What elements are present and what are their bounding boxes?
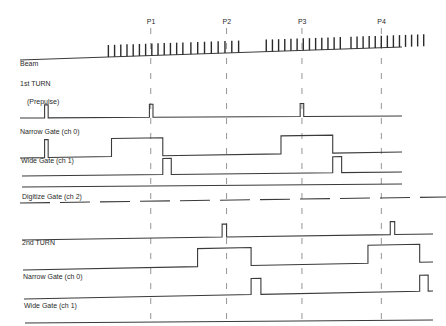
marker-label-p2: P2 (223, 18, 232, 25)
beam-label: Beam (20, 60, 38, 67)
prepulse-trace (20, 104, 402, 118)
digitize-gate-2-trace (25, 320, 433, 323)
narrow-gate-trace (20, 135, 402, 158)
marker-label-p4: P4 (377, 18, 386, 25)
marker-label-p3: P3 (298, 18, 307, 25)
marker-label-p1: P1 (147, 18, 156, 25)
timing-diagram-canvas: P1P2P3P4 Beam 1st TURN (Prepulse) Narrow… (0, 0, 446, 326)
timing-diagram: P1P2P3P4 Beam 1st TURN (Prepulse) Narrow… (0, 0, 446, 326)
digitize-gate-label: Digitize Gate (ch 2) (22, 193, 82, 201)
section-title-1st-turn: 1st TURN (20, 80, 51, 87)
turn-separator (20, 197, 446, 203)
bunch-train-2 (191, 41, 239, 55)
narrow-gate-2-trace (23, 244, 433, 270)
time-markers: P1P2P3P4 (147, 18, 386, 320)
bunch-train-4 (351, 34, 424, 48)
narrow-gate-label: Narrow Gate (ch 0) (20, 128, 80, 136)
wide-gate-2-trace (24, 275, 433, 299)
digitize-gate-trace (22, 184, 402, 187)
wide-gate-trace (22, 157, 402, 176)
wide-gate-2-label: Wide Gate (ch 1) (24, 302, 77, 310)
narrow-gate-2-label: Narrow Gate (ch 0) (23, 273, 83, 281)
prepulse-2-trace (22, 222, 433, 240)
prepulse-label: (Prepulse) (27, 98, 59, 106)
beam-trace: Beam (20, 34, 424, 67)
